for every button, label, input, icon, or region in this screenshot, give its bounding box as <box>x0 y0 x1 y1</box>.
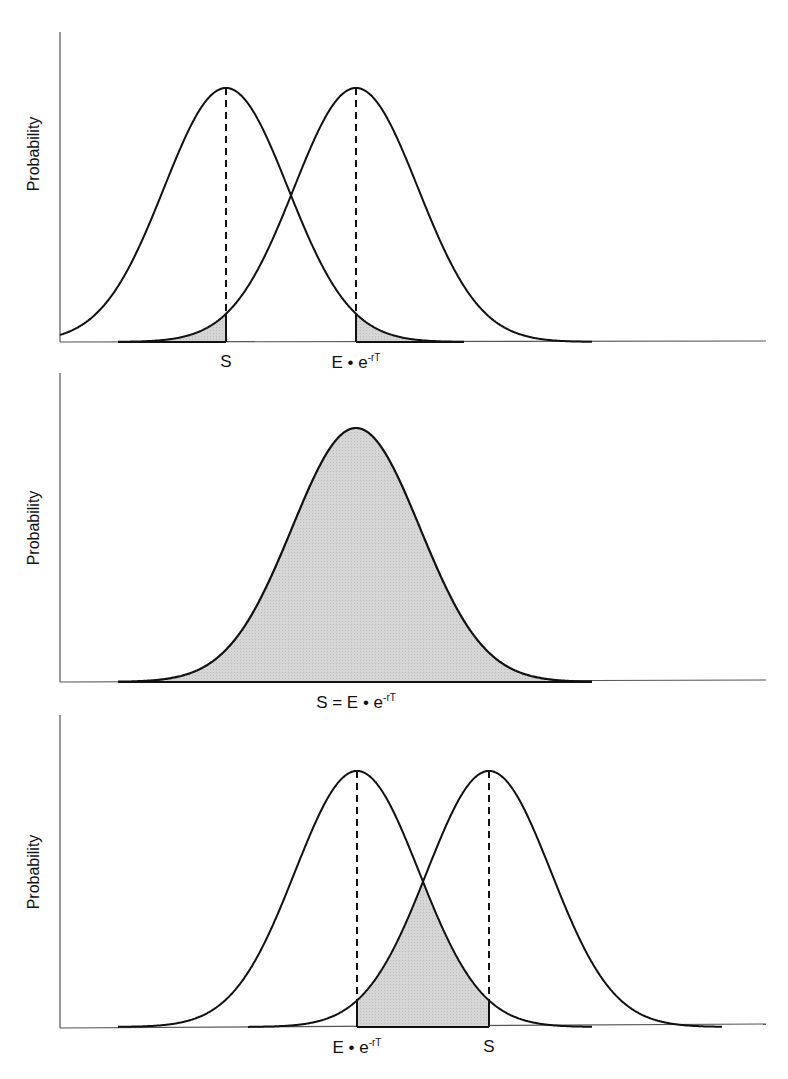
curve-s-bottom <box>248 771 722 1027</box>
xlabel-ee-top: E • e-rT <box>332 352 381 373</box>
shaded-full-curve <box>118 428 592 682</box>
curve-ee-bottom <box>118 771 592 1027</box>
shaded-between-means <box>357 882 489 1027</box>
shaded-region-right-tail <box>356 314 464 342</box>
ylabel-top: Probability <box>25 117 43 192</box>
ylabel-bottom: Probability <box>25 835 43 910</box>
curve-s-top <box>60 88 464 342</box>
xlabel-s-top: S <box>220 352 231 372</box>
xlabel-ee-bottom: E • e-rT <box>333 1037 382 1058</box>
shaded-region-left-tail <box>118 314 226 342</box>
diagram-canvas <box>0 0 788 1079</box>
xlabel-s-bottom: S <box>483 1037 494 1057</box>
xlabel-s-eq-ee-middle: S = E • e-rT <box>316 692 396 713</box>
ylabel-middle: Probability <box>25 491 43 566</box>
